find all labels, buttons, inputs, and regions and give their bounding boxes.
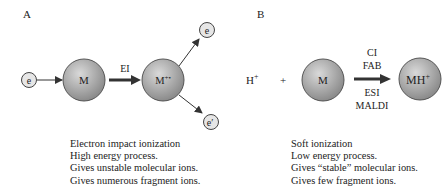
molecule-m-a: M [63,59,105,101]
panel-b-description: Soft ionization Low energy process. Give… [291,138,418,187]
svg-text:M: M [79,74,89,86]
svg-text:e: e [205,25,210,36]
proton: H+ [246,72,259,86]
panel-a-description: Electron impact ionization High energy p… [70,138,200,187]
svg-text:e: e [27,75,32,86]
plus-sign: + [280,74,286,86]
desc-line: Soft ionization [291,138,418,150]
svg-text:M: M [318,74,328,86]
desc-line: Gives “stable” molecular ions. [291,162,418,174]
desc-line: Electron impact ionization [70,138,200,150]
desc-line: Gives unstable molecular ions. [70,162,200,174]
electron-out-arrow-2 [179,95,202,113]
panel-a-label: A [23,8,31,20]
method-esi: ESI [365,87,380,98]
ei-arrow [109,75,141,85]
desc-line: Low energy process. [291,150,418,162]
desc-line: Gives numerous fragment ions. [70,175,200,187]
svg-text:e′: e′ [207,117,214,128]
electron-out-arrow-1 [179,39,199,66]
electron-in: e [22,73,37,88]
electron-out-1: e [200,23,215,38]
panel-b-label: B [257,8,264,20]
radical-cation: M+• [142,59,184,101]
desc-line: Gives few fragment ions. [291,175,418,187]
desc-line: High energy process. [70,150,200,162]
electron-out-2: e′ [204,115,219,130]
method-fab: FAB [363,60,382,71]
method-maldi: MALDI [356,100,389,111]
ei-label: EI [120,63,129,74]
soft-ionization-arrow [354,74,391,84]
molecule-m-b: M [302,59,344,101]
method-ci: CI [367,47,377,58]
protonated-molecule: MH+ [399,58,441,100]
